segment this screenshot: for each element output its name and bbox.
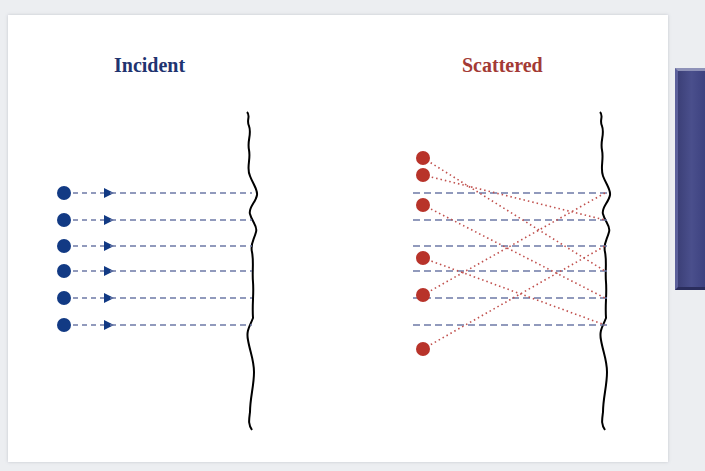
scattered-ray-line: [423, 205, 605, 298]
incident-particle: [57, 213, 71, 227]
scattered-particle: [416, 198, 430, 212]
incident-rays: [57, 186, 252, 332]
incident-particle: [57, 186, 71, 200]
incident-particle: [57, 291, 71, 305]
scattered-ray-line: [423, 193, 605, 295]
scattered-particle: [416, 151, 430, 165]
incident-particle: [57, 318, 71, 332]
scattered-ray-line: [423, 258, 605, 325]
scattered-particle: [416, 342, 430, 356]
scattered-particle: [416, 288, 430, 302]
incident-rough-surface: [247, 112, 257, 430]
scattered-rays: [413, 151, 607, 356]
incident-particle: [57, 239, 71, 253]
scattered-ray-line: [423, 175, 605, 220]
scattered-ray-line: [423, 158, 605, 271]
incident-particle: [57, 264, 71, 278]
scattered-particle: [416, 168, 430, 182]
scattered-particle: [416, 251, 430, 265]
